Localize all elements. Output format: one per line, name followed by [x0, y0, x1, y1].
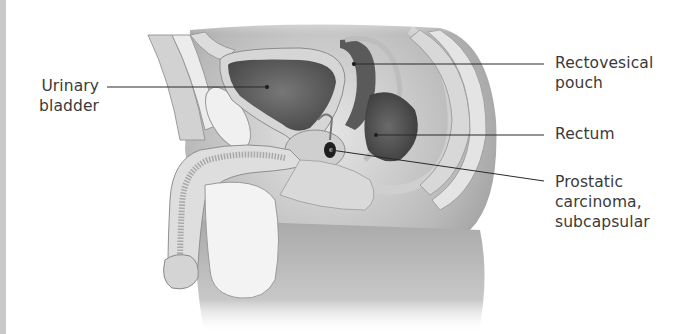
label-line: Prostatic [555, 172, 650, 192]
label-line: Rectovesical [555, 53, 653, 73]
label-line: pouch [555, 73, 653, 93]
label-prostatic-carcinoma: Prostatic carcinoma, subcapsular [555, 172, 650, 232]
label-rectum: Rectum [555, 124, 615, 144]
label-rectovesical-pouch: Rectovesical pouch [555, 53, 653, 93]
pelvis-illustration [0, 0, 695, 334]
label-line: subcapsular [555, 212, 650, 232]
label-line: Rectum [555, 124, 615, 144]
label-line: bladder [35, 96, 99, 116]
scrotum [205, 182, 279, 298]
label-line: carcinoma, [555, 192, 650, 212]
label-line: Urinary [35, 76, 99, 96]
label-urinary-bladder: Urinary bladder [35, 76, 99, 116]
